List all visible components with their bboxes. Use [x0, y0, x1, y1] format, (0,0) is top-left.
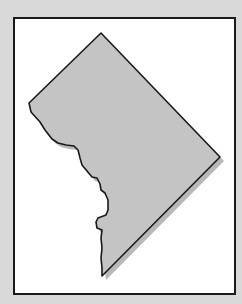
dc-region-shape [29, 33, 220, 276]
dc-map [0, 0, 242, 304]
